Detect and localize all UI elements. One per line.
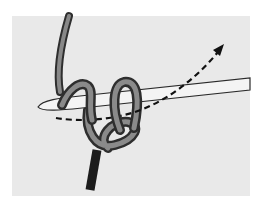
crochet-illustration: [0, 0, 262, 209]
working-yarn: [59, 16, 69, 92]
dashed-arrow: [135, 52, 218, 112]
arrow-head-icon: [213, 44, 224, 56]
yarn-tail: [90, 150, 97, 190]
